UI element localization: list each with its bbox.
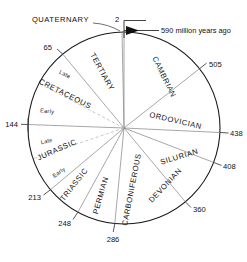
- boundary-number-2: 2: [115, 15, 119, 24]
- tick-248: [73, 212, 78, 219]
- sub-label-cretaceous-early: Early: [40, 107, 55, 114]
- boundary-number-360: 360: [193, 205, 206, 214]
- spoke-boundary-144: [28, 125, 124, 129]
- period-label-carboniferous: CARBONIFEROUS: [120, 153, 143, 227]
- boundary-number-408: 408: [223, 162, 236, 171]
- tick-213: [44, 190, 51, 195]
- boundary-number-505: 505: [209, 60, 222, 69]
- tick-438: [220, 133, 229, 134]
- spoke-boundary-438: [124, 128, 220, 133]
- period-label-ordovician: ORDOVICIAN: [148, 110, 202, 131]
- sub-label-cretaceous-late: Late: [58, 69, 71, 80]
- period-label-cretaceous: CRETACEOUS: [37, 77, 92, 111]
- period-label-devonian: DEVONIAN: [147, 166, 184, 204]
- tick-360: [185, 202, 191, 208]
- label-quaternary: QUATERNARY: [32, 15, 89, 24]
- boundary-number-248: 248: [58, 219, 71, 228]
- tick-65: [57, 49, 63, 54]
- tick-286: [113, 224, 115, 232]
- boundary-number-144: 144: [5, 120, 18, 129]
- time-circle-svg: CAMBRIAN ORDOVICIAN SILURIAN DEVONIAN CA…: [0, 0, 247, 262]
- time-direction-arrow-icon: [126, 26, 139, 35]
- period-labels: CAMBRIAN ORDOVICIAN SILURIAN DEVONIAN CA…: [36, 51, 203, 226]
- boundary-number-65: 65: [44, 43, 52, 52]
- period-label-cambrian: CAMBRIAN: [150, 55, 178, 99]
- period-label-tertiary: TERTIARY: [88, 51, 116, 92]
- sub-label-jurassic-early: Early: [51, 166, 66, 179]
- spoke-boundary-213: [51, 128, 125, 190]
- tick-408: [214, 162, 222, 165]
- tick-505: [200, 63, 207, 68]
- boundary-number-438: 438: [230, 129, 243, 138]
- boundary-number-286: 286: [107, 235, 120, 244]
- boundary-number-213: 213: [28, 193, 41, 202]
- spoke-boundary-65: [63, 54, 124, 128]
- period-label-permian: PERMIAN: [91, 176, 110, 215]
- geologic-time-circle-diagram: CAMBRIAN ORDOVICIAN SILURIAN DEVONIAN CA…: [0, 0, 247, 262]
- caption-590-million-years-ago: 590 million years ago: [161, 26, 231, 35]
- sub-label-jurassic-late: Late: [40, 137, 53, 145]
- quaternary-leader-line: [93, 23, 120, 31]
